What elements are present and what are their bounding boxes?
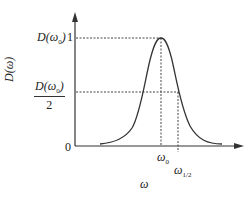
peak-value-label: D(ω0) [37,31,66,46]
half-max-label: D(ω0) 2 [34,80,65,111]
y-axis-arrow-icon [72,12,78,22]
y-axis-label: D(ω) [2,57,17,82]
omega-half-label: ω1/2 [174,164,191,179]
omega0-label: ω0 [157,151,169,166]
x-axis-arrow-icon [234,143,244,149]
x-axis-label: ω [140,178,148,190]
peak-normalized-label: 1 [67,31,73,43]
origin-label: 0 [65,141,71,153]
